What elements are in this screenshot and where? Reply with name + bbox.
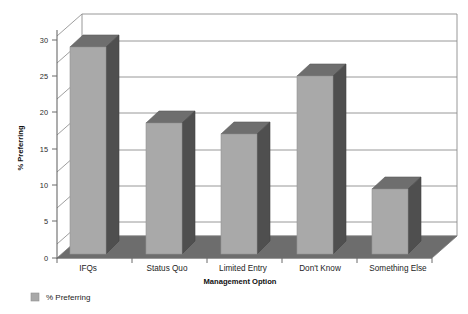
x-tick-label-limited-entry: Limited Entry [219,264,268,273]
x-tick-label-status-quo: Status Quo [147,264,188,273]
x-tick-label-dont-know: Don't Know [299,264,341,273]
y-tick-label-15: 15 [40,145,48,154]
x-axis-title: Management Option [204,277,277,286]
bar-ifqs[interactable] [70,35,119,254]
y-tick-label-0: 0 [44,254,48,263]
bar-chart-3d: 30 25 20 15 10 5 0 % Preferring [0,0,468,314]
y-tick-label-25: 25 [40,72,48,81]
legend-swatch-percent-preferring [31,293,39,301]
x-tick-label-something-else: Something Else [369,264,427,273]
bar-something-else[interactable] [372,177,421,254]
y-tick-label-30: 30 [40,36,48,45]
x-tick-label-ifqs: IFQs [79,264,97,273]
chart-container: 30 25 20 15 10 5 0 % Preferring [0,0,468,314]
legend-label-percent-preferring: % Preferring [46,293,90,302]
y-tick-label-5: 5 [44,217,48,226]
y-axis-title: % Preferring [16,125,25,171]
bar-status-quo[interactable] [146,111,195,254]
y-tick-label-20: 20 [40,108,48,117]
bar-dont-know[interactable] [297,64,346,254]
bar-limited-entry[interactable] [221,122,270,254]
y-tick-label-10: 10 [40,181,48,190]
